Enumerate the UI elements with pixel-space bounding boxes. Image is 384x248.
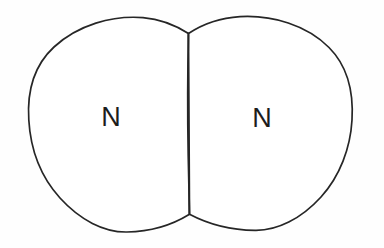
- diagram-canvas: N N: [0, 0, 384, 248]
- atom-label-left: N: [101, 102, 121, 132]
- molecule-diagram: N N: [0, 0, 384, 248]
- atom-label-right: N: [252, 103, 272, 133]
